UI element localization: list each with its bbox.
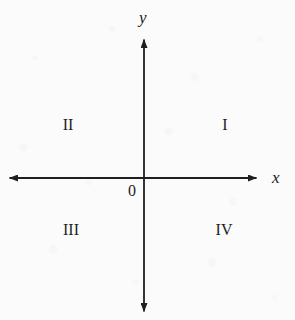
coordinate-axes	[0, 0, 295, 320]
x-axis-label: x	[272, 169, 280, 186]
quadrant-3-label: III	[63, 222, 79, 238]
quadrant-2-label: II	[63, 117, 74, 133]
y-axis-label: y	[139, 9, 147, 26]
quadrant-1-label: I	[222, 117, 227, 133]
quadrant-diagram: y x 0 I II III IV	[0, 0, 295, 320]
quadrant-4-label: IV	[216, 222, 233, 238]
origin-label: 0	[128, 183, 136, 199]
